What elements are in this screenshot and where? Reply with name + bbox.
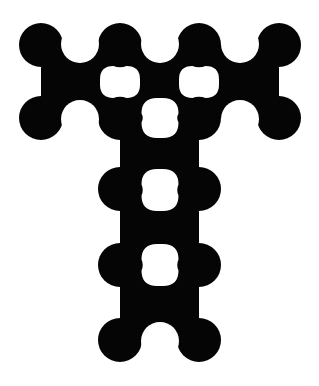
edge-notch <box>297 63 319 101</box>
edge-notch <box>217 134 255 172</box>
edge-notch <box>61 25 99 63</box>
molecule-dot <box>19 96 63 140</box>
edge-notch <box>64 134 102 172</box>
edge-notch <box>141 25 179 63</box>
molecule-t-logo-icon <box>0 0 319 386</box>
inner-hole <box>179 66 219 98</box>
logo-canvas: T <box>0 0 319 386</box>
edge-notch <box>64 284 102 322</box>
edge-notch <box>217 284 255 322</box>
molecule-dot <box>98 167 142 211</box>
inner-hole <box>142 169 179 211</box>
inner-hole <box>142 244 179 286</box>
edge-notch <box>221 25 259 63</box>
edge-notch <box>0 63 23 101</box>
molecule-dot <box>257 96 301 140</box>
inner-hole <box>142 98 179 138</box>
molecule-dot <box>257 23 301 67</box>
molecule-dot <box>177 96 221 140</box>
edge-notch <box>141 322 179 360</box>
inner-hole <box>100 66 140 98</box>
molecule-dot <box>98 318 142 362</box>
edge-notch <box>61 100 99 138</box>
molecule-dot <box>177 23 221 67</box>
molecule-dot <box>177 243 221 287</box>
molecule-dot <box>98 96 142 140</box>
edge-notch <box>64 209 102 247</box>
edge-notch <box>221 100 259 138</box>
molecule-dot <box>98 23 142 67</box>
edge-notch <box>217 209 255 247</box>
molecule-dot <box>19 23 63 67</box>
molecule-dot <box>177 167 221 211</box>
molecule-dot <box>98 243 142 287</box>
molecule-dot <box>177 318 221 362</box>
